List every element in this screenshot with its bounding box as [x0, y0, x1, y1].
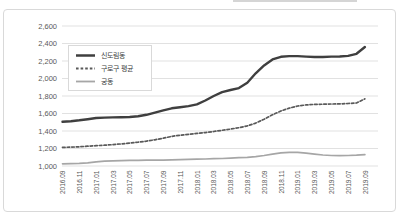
- x-tick-label: 2017.05: [126, 170, 133, 194]
- legend-item-sindorim: 신도림동: [75, 50, 146, 61]
- legend-item-gungdong: 궁동: [75, 76, 146, 87]
- y-tick-label: 2,400: [38, 39, 57, 48]
- x-tick-label: 2019.09: [362, 170, 369, 194]
- y-tick-label: 1,400: [38, 127, 57, 136]
- x-tick-label: 2016.11: [76, 170, 83, 193]
- x-tick-label: 2017.11: [177, 170, 184, 193]
- x-tick-label: 2018.11: [278, 170, 285, 193]
- legend-label: 신도림동: [101, 50, 125, 61]
- x-tick-label: 2019.07: [345, 170, 352, 194]
- x-tick-label: 2018.09: [261, 170, 268, 194]
- x-tick-label: 2019.01: [294, 170, 301, 194]
- y-tick-label: 2,600: [38, 22, 57, 31]
- x-tick-label: 2019.05: [328, 170, 335, 194]
- legend-label: 구로구 평균: [101, 63, 133, 74]
- series-line-1: [63, 99, 365, 148]
- x-tick-label: 2017.09: [160, 170, 167, 194]
- legend-swatch-dashed: [75, 66, 96, 71]
- y-tick-label: 1,800: [38, 92, 57, 101]
- y-tick-label: 2,200: [38, 57, 57, 66]
- legend-item-guro-average: 구로구 평균: [75, 63, 146, 74]
- x-tick-label: 2018.03: [210, 170, 217, 194]
- chart-legend: 신도림동 구로구 평균 궁동: [68, 45, 152, 91]
- legend-swatch-solid-light: [75, 79, 96, 84]
- x-tick-label: 2019.03: [311, 170, 318, 194]
- y-tick-label: 1,000: [38, 162, 57, 171]
- x-tick-label: 2018.05: [227, 170, 234, 194]
- x-tick-label: 2018.07: [244, 170, 251, 194]
- x-tick-label: 2017.03: [110, 170, 117, 194]
- y-tick-label: 1,200: [38, 144, 57, 153]
- legend-swatch-solid-thick: [75, 53, 96, 58]
- series-line-2: [63, 152, 365, 164]
- legend-label: 궁동: [101, 76, 113, 87]
- y-tick-label: 1,600: [38, 109, 57, 118]
- line-chart: 1,0001,2001,4001,6001,8002,0002,2002,400…: [0, 0, 401, 224]
- y-tick-label: 2,000: [38, 74, 57, 83]
- x-tick-label: 2017.01: [93, 170, 100, 194]
- x-tick-label: 2017.07: [143, 170, 150, 194]
- x-tick-label: 2018.01: [194, 170, 201, 194]
- x-tick-label: 2016.09: [59, 170, 66, 194]
